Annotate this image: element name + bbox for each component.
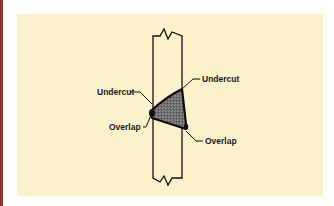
leader-undercut-right	[182, 79, 200, 89]
weld-bead	[149, 89, 188, 130]
label-overlap-left: Overlap	[109, 122, 141, 132]
weld-toe-overlap-left	[149, 109, 155, 117]
leader-overlap-right	[186, 131, 203, 141]
weld-diagram: Undercut Undercut Overlap Overlap	[0, 0, 334, 206]
label-overlap-right: Overlap	[205, 136, 237, 146]
leader-overlap-left	[143, 115, 151, 127]
weld-toe-overlap-right	[184, 124, 188, 130]
label-undercut-left: Undercut	[97, 87, 134, 97]
label-undercut-right: Undercut	[202, 74, 239, 84]
